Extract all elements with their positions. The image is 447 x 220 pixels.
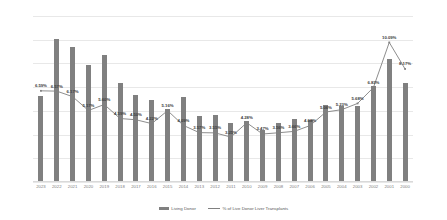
line-marker [341,109,343,111]
line-marker [262,133,264,135]
line-marker [151,123,153,125]
line-marker [167,110,169,112]
line-marker [357,103,359,105]
x-axis-tick-label: 2013 [194,185,204,189]
line-point-label: 5.68% [352,97,364,101]
line-point-label: 3.57% [193,126,205,130]
x-axis-tick-label: 2016 [147,185,157,189]
line-point-label: 5.06% [320,106,332,110]
line-marker [56,90,58,92]
x-axis-tick-label: 2008 [274,185,284,189]
x-axis-tick-label: 2011 [226,185,235,189]
x-axis-tick-label: 2010 [242,185,252,189]
x-axis-tick-label: 2006 [305,185,315,189]
line-marker [72,96,74,98]
x-axis-tick-label: 2000 [400,185,410,189]
legend-label: Living Donor [171,206,196,211]
line-point-label: 5.23% [336,103,348,107]
legend-item-living-donor[interactable]: Living Donor [159,206,196,211]
line-point-label: 4.08% [304,119,316,123]
x-axis-tick-label: 2001 [384,185,394,189]
line-marker [278,132,280,134]
chart-container: 0100200300400500600700 0.00%2.00%4.00%6.… [0,0,447,220]
line-point-label: 10.09% [382,36,396,40]
x-axis-tick-label: 2012 [210,185,220,189]
line-point-label: 4.22% [146,117,158,121]
line-point-label: 6.17% [67,90,79,94]
x-axis-tick-label: 2023 [36,185,46,189]
legend-item-percent-live-donor[interactable]: % of Live Donor Liver Transplants [208,206,288,211]
line-point-label: 3.47% [257,127,269,131]
plot-area: 0100200300400500600700 0.00%2.00%4.00%6.… [33,16,413,182]
gridline [33,182,413,183]
line-point-label: 4.59% [114,112,126,116]
x-axis-tick-label: 2005 [321,185,331,189]
x-axis-line [33,181,413,182]
x-axis-tick-label: 2003 [353,185,363,189]
line-point-label: 3.25% [225,131,237,135]
x-axis-tick-label: 2002 [369,185,379,189]
line-marker [214,132,216,134]
line-point-label: 3.55% [209,126,221,130]
line-marker [373,87,375,89]
line-point-label: 5.60% [98,98,110,102]
x-axis-tick-label: 2018 [115,185,125,189]
line-point-label: 5.16% [162,104,174,108]
line-marker [404,68,406,70]
line-marker [103,104,105,106]
x-axis-tick-label: 2019 [99,185,109,189]
legend-label: % of Live Donor Liver Transplants [222,206,288,211]
line-point-label: 6.57% [51,85,63,89]
line-point-label: 8.17% [399,62,411,66]
x-axis-tick-label: 2017 [131,185,141,189]
line-point-label: 6.59% [35,84,47,88]
chart-legend: Living Donor % of Live Donor Liver Trans… [0,206,447,211]
line-marker [309,125,311,127]
x-axis-tick-label: 2004 [337,185,347,189]
line-marker [246,122,248,124]
line-marker [230,136,232,138]
line-marker [88,110,90,112]
line-marker [119,118,121,120]
x-axis-tick-label: 2014 [179,185,189,189]
legend-bar-swatch-icon [159,207,169,210]
line-marker [293,130,295,132]
x-axis-tick-label: 2020 [84,185,94,189]
line-marker [198,132,200,134]
x-axis-tick-label: 2007 [289,185,299,189]
line-point-label: 3.66% [288,125,300,129]
line-marker [183,125,185,127]
legend-line-swatch-icon [208,208,220,209]
line-marker [388,42,390,44]
x-axis-tick-label: 2022 [52,185,62,189]
line-point-label: 5.17% [82,104,94,108]
line-marker [325,111,327,113]
trend-line [41,42,405,137]
x-axis-tick-label: 2021 [68,185,78,189]
line-point-label: 4.50% [130,113,142,117]
line-point-label: 3.56% [272,126,284,130]
x-axis-tick-label: 2015 [163,185,173,189]
line-point-label: 6.83% [367,81,379,85]
x-axis-tick-label: 2009 [258,185,268,189]
line-marker [135,119,137,121]
x-axis-labels: 2023202220212020201920182017201620152014… [33,185,413,195]
line-point-label: 4.28% [241,116,253,120]
line-marker [40,90,42,92]
line-point-label: 4.09% [177,119,189,123]
